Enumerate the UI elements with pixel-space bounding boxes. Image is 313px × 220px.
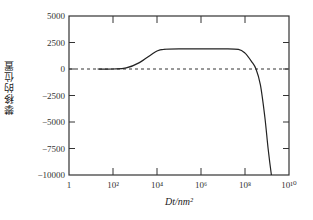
plot-frame	[69, 16, 289, 175]
y-tick-label: −5000	[42, 117, 66, 127]
x-tick-label: 10¹⁰	[281, 180, 297, 190]
y-tick-label: −2500	[42, 91, 66, 101]
y-axis-ticks: 500025000−2500−5000−7500−10000	[37, 11, 289, 180]
y-tick-label: 0	[61, 64, 66, 74]
y-tick-label: 2500	[47, 38, 66, 48]
y-tick-label: 5000	[47, 11, 66, 21]
y-axis-title: 攀移的位置	[2, 60, 16, 115]
x-tick-label: 10⁴	[151, 180, 163, 190]
x-axis-title: Dt/nm²	[164, 196, 194, 207]
x-tick-label: 10²	[107, 180, 119, 190]
data-curve	[98, 49, 272, 175]
x-tick-label: 10⁸	[239, 180, 251, 190]
x-tick-label: 1	[67, 180, 72, 190]
x-tick-label: 10⁶	[195, 180, 207, 190]
chart: 110²10⁴10⁶10⁸10¹⁰ 500025000−2500−5000−75…	[0, 0, 313, 220]
y-tick-label: −10000	[37, 170, 65, 180]
y-tick-label: −7500	[42, 144, 66, 154]
